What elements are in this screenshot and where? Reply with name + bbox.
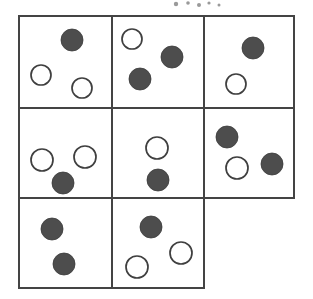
open-circle xyxy=(226,74,246,94)
cell-background xyxy=(19,16,112,108)
filled-circle xyxy=(242,37,264,59)
cell-background xyxy=(204,108,294,198)
circle-grid-figure xyxy=(0,0,313,299)
filled-circle xyxy=(216,126,238,148)
grid-cell xyxy=(204,16,294,108)
filled-circle xyxy=(140,216,162,238)
speck xyxy=(174,2,178,6)
grid-cell xyxy=(19,198,112,288)
speck xyxy=(197,3,201,7)
speck xyxy=(218,4,221,7)
speck xyxy=(207,1,210,4)
grid-cell xyxy=(204,108,294,198)
open-circle xyxy=(31,65,51,85)
cell-background xyxy=(112,198,204,288)
filled-circle xyxy=(147,169,169,191)
grid-cell xyxy=(19,108,112,198)
filled-circle xyxy=(52,172,74,194)
filled-circle xyxy=(61,29,83,51)
filled-circle xyxy=(41,218,63,240)
speck xyxy=(186,1,190,5)
open-circle xyxy=(146,137,168,159)
grid-cell xyxy=(112,16,204,108)
filled-circle xyxy=(161,46,183,68)
open-circle xyxy=(122,29,142,49)
open-circle xyxy=(31,149,53,171)
filled-circle xyxy=(53,253,75,275)
open-circle xyxy=(126,256,148,278)
filled-circle xyxy=(129,68,151,90)
figure-canvas xyxy=(0,0,313,299)
cell-background xyxy=(204,16,294,108)
grid-cell xyxy=(19,16,112,108)
grid-cell xyxy=(112,198,204,288)
filled-circle xyxy=(261,153,283,175)
grid-cell xyxy=(112,108,204,198)
open-circle xyxy=(74,146,96,168)
open-circle xyxy=(72,78,92,98)
open-circle xyxy=(226,157,248,179)
open-circle xyxy=(170,242,192,264)
cell-background xyxy=(112,16,204,108)
